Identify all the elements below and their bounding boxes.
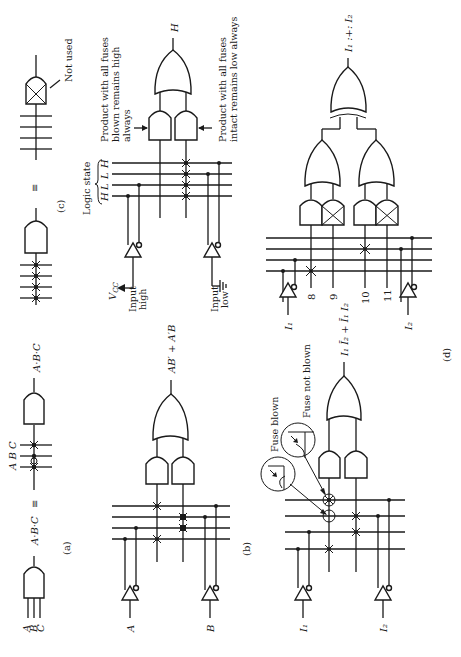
fuse-grid-c-main	[112, 140, 232, 245]
inverter-d-i1-left	[295, 586, 312, 619]
fuse-not-blown-label: Fuse not blown	[301, 344, 312, 418]
caption-b: (b)	[241, 542, 252, 556]
note-blown-line1: Product with all fuses	[99, 37, 110, 142]
logic-state-1: H	[99, 192, 110, 202]
input-i1-left-label: I₁	[298, 624, 309, 633]
fuse-grid-c-unused	[20, 104, 52, 160]
and-gate-a-left	[24, 556, 44, 618]
panel-c: (c) ≡ Not used Logic state H L L H	[20, 17, 239, 312]
inverter-b-a	[122, 586, 139, 619]
note-blown-line2: blown remains high	[110, 47, 121, 142]
inverter-d-i2-left	[375, 586, 392, 619]
inverter-c-low	[204, 243, 226, 293]
output-d-right-label: I₁ :+: I₂	[343, 15, 354, 53]
logic-state-3: L	[99, 172, 110, 180]
input-a-b-label: A	[125, 625, 136, 633]
gates-b	[146, 380, 194, 484]
term-10: 10	[360, 291, 371, 304]
gates-d-right	[300, 58, 398, 225]
output-a-label: A·B·C	[31, 343, 42, 373]
fuse-grid-c	[20, 258, 52, 305]
input-b-b-label: B	[205, 625, 216, 633]
fuse-blown-magnifier	[261, 457, 327, 515]
equiv-left-label: A·B·C	[29, 516, 40, 546]
and-gate-c-left	[25, 208, 47, 258]
and-gate-a-right	[24, 378, 44, 424]
pla-fuse-diagram: A B C A·B·C ≡ (a) A B C A·B·C	[0, 0, 461, 657]
note-intact-line2: intact remains low always	[228, 17, 239, 142]
output-d-left-label: I₁ Ī₂ + Ī₁ I₂	[339, 303, 350, 357]
input-c-label: C	[35, 624, 46, 632]
note-blown-line3: always	[121, 109, 132, 142]
fuse-blown-label: Fuse blown	[269, 397, 280, 452]
inverter-d-i2-right	[400, 283, 417, 315]
panel-a: A B C A·B·C ≡ (a) A B C A·B·C	[7, 343, 72, 633]
not-used-arrow	[50, 80, 60, 88]
equiv-sign-c: ≡	[29, 184, 40, 192]
input-i1-right-label: I₁	[283, 322, 294, 331]
and-gate-c-not-used	[26, 55, 46, 104]
note-intact-line1: Product with all fuses	[217, 37, 228, 142]
inverter-c-high	[117, 243, 142, 293]
input-high-line2: high	[137, 289, 148, 310]
panel-b: A B AB′ + A′B (b)	[112, 325, 252, 633]
caption-a: (a)	[61, 541, 72, 555]
term-9: 9	[328, 294, 339, 300]
fuse-grid-b	[112, 484, 230, 590]
term-8: 8	[306, 294, 317, 300]
inverter-b-b	[202, 586, 219, 619]
output-c-label: H	[169, 23, 180, 33]
and-gates-c-main	[149, 38, 197, 140]
logic-state-label: Logic state	[81, 161, 92, 215]
equiv-sign-a: ≡	[29, 500, 40, 508]
output-b-label: AB′ + A′B	[166, 325, 177, 374]
caption-c: (c)	[55, 199, 66, 213]
not-used-label: Not used	[63, 38, 74, 82]
panel-d-left: I₁ I₂ Fuse blown Fuse not blown	[261, 303, 452, 633]
gates-d-left	[319, 362, 367, 478]
input-i2-right-label: I₂	[403, 322, 414, 331]
caption-d: (d)	[441, 348, 452, 362]
vcc-label: VCC	[107, 281, 120, 300]
fuse-grid-a	[20, 425, 52, 490]
term-11: 11	[382, 289, 393, 302]
panel-d-right: I₁ I₂ 8 9 10 11	[266, 15, 432, 331]
logic-state-2: L	[99, 183, 110, 191]
lines-label-a: A B C	[7, 441, 18, 471]
input-i2-left-label: I₂	[378, 624, 389, 633]
input-low-line2: low	[219, 291, 230, 308]
